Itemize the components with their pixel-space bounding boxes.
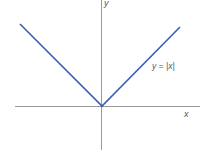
vertex-point <box>101 105 104 108</box>
x-axis-label: x <box>183 109 189 119</box>
curve-label: y = |x| <box>151 61 175 71</box>
y-axis-label: y <box>103 0 109 8</box>
chart-canvas: y x y = |x| <box>0 0 201 156</box>
